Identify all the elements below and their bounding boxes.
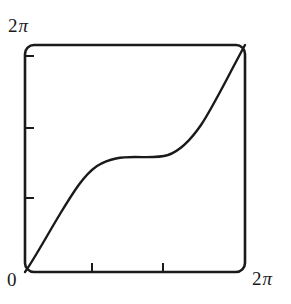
x-axis-max-number: 2 <box>252 268 262 289</box>
y-axis-max-pi-symbol: π <box>18 15 29 36</box>
plot-frame <box>25 45 245 272</box>
data-curve <box>25 45 245 272</box>
plot-canvas <box>0 0 291 304</box>
y-axis-max-label: 2π <box>8 16 28 35</box>
y-axis-ticks <box>26 56 34 198</box>
x-axis-ticks <box>92 263 163 271</box>
x-axis-max-label: 2π <box>252 269 272 288</box>
x-axis-max-pi-symbol: π <box>262 268 273 289</box>
origin-label: 0 <box>7 270 17 289</box>
plot-figure: 2π 0 2π <box>0 0 291 304</box>
y-axis-max-number: 2 <box>8 15 18 36</box>
